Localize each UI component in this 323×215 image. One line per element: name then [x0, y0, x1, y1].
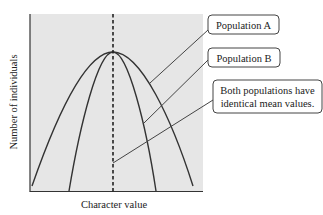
x-axis-label: Character value: [81, 199, 148, 210]
y-axis-label: Number of individuals: [8, 54, 19, 149]
callout-population-a: Population A: [208, 15, 279, 34]
plot-area: [30, 14, 203, 191]
callout-population-a-text: Population A: [216, 20, 272, 31]
callout-mean-note-line-1: Both populations have: [220, 85, 315, 96]
callout-mean-note: Both populations have identical mean val…: [213, 80, 322, 113]
diagram-figure: Population A Population B Both populatio…: [0, 0, 323, 215]
callout-mean-note-line-2: identical mean values.: [221, 98, 315, 109]
callout-population-b-text: Population B: [216, 53, 271, 64]
diagram-svg: Population A Population B Both populatio…: [0, 0, 323, 215]
callout-population-b: Population B: [208, 48, 280, 67]
